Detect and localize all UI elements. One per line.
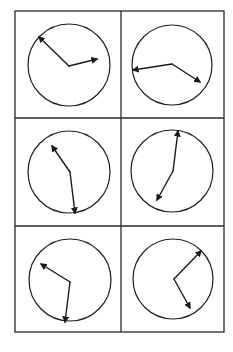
clock-hand-arrow-icon	[172, 64, 200, 82]
clock-row1-left	[28, 24, 110, 106]
clock-face	[28, 24, 110, 106]
clock-face	[29, 239, 111, 321]
clock-hand-arrow-icon	[69, 59, 97, 66]
clock-row2-right	[131, 130, 213, 212]
clock-face	[131, 130, 213, 212]
clock-hand-arrow-icon	[157, 171, 173, 200]
clock-row2-left	[28, 131, 110, 213]
clock-row1-right	[132, 25, 212, 105]
clock-hand-arrow-icon	[174, 279, 190, 308]
clock-hand-arrow-icon	[41, 264, 70, 282]
clock-row3-left	[29, 239, 111, 322]
grid-border	[15, 11, 224, 332]
grid-frame	[15, 11, 224, 332]
clock-hand-arrow-icon	[65, 282, 70, 322]
clock-hand-arrow-icon	[39, 37, 69, 66]
clock-grid-diagram	[0, 0, 233, 352]
clock-face	[132, 25, 212, 105]
clock-hand-arrow-icon	[70, 172, 75, 213]
clock-row3-right	[133, 239, 213, 319]
clock-hand-arrow-icon	[133, 64, 172, 70]
clock-hand-arrow-icon	[174, 251, 201, 279]
clock-hand-arrow-icon	[52, 146, 70, 172]
clock-hand-arrow-icon	[173, 131, 178, 171]
clock-face	[28, 131, 110, 213]
